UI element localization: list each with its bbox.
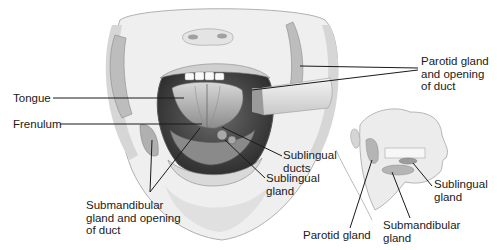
label-submandibular-inset: Submandibular gland xyxy=(383,219,460,244)
illustration xyxy=(0,0,497,250)
label-tongue: Tongue xyxy=(13,92,51,105)
label-parotid-main: Parotid gland and opening of duct xyxy=(421,55,489,93)
label-parotid-inset: Parotid gland xyxy=(303,229,371,242)
label-submandibular-main: Submandibular gland and opening of duct xyxy=(86,199,181,237)
inset-head xyxy=(336,109,447,220)
salivary-glands-diagram: Tongue Frenulum Parotid gland and openin… xyxy=(0,0,497,250)
label-sublingual-inset: Sublingual gland xyxy=(434,178,488,203)
label-sublingual-ducts: Sublingual ducts xyxy=(283,149,337,174)
label-sublingual-gland: Sublingual gland xyxy=(266,172,320,197)
label-frenulum: Frenulum xyxy=(13,118,62,131)
